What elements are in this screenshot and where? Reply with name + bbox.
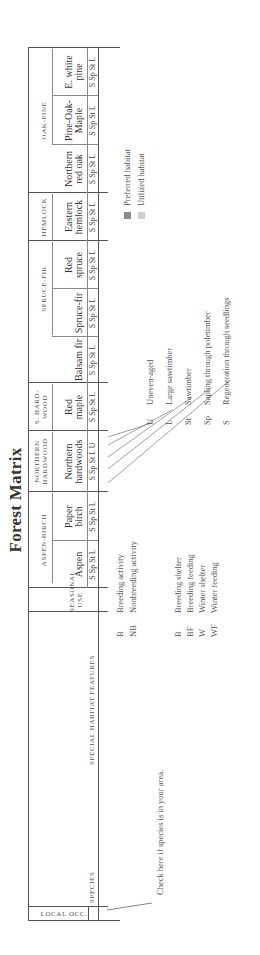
- activity-legend: B Breeding activity NB Nonbreeding activ…: [115, 541, 138, 637]
- legend-text: Winter feeding: [209, 562, 219, 613]
- legend-text: Winter shelter: [197, 565, 207, 613]
- age-legend-item: L Large sawtimber: [164, 297, 174, 425]
- habitat-legend: Preferred habitat Utilized habitat: [122, 149, 146, 219]
- leader-lines: [0, 0, 260, 955]
- legend-abbr: NB: [128, 623, 138, 637]
- legend-text: Breeding shelter: [173, 557, 183, 613]
- legend-abbr: BF: [185, 623, 195, 637]
- legend-abbr: B: [115, 623, 125, 637]
- legend-abbr: S: [221, 413, 231, 425]
- legend-text: Sapling through poletimber: [202, 312, 212, 406]
- legend-abbr: WF: [209, 623, 219, 637]
- legend-abbr: L: [164, 413, 174, 425]
- legend-abbr: Sp: [202, 413, 212, 425]
- legend-text: Uneven-aged: [145, 360, 155, 405]
- activity-legend-item: NB Nonbreeding activity: [128, 541, 138, 637]
- seasonal-legend-item: WF Winter feeding: [209, 554, 219, 637]
- legend-text: Sawtimber: [183, 368, 193, 405]
- legend-text: Large sawtimber: [164, 348, 174, 405]
- age-legend-item: Sp Sapling through poletimber: [202, 297, 212, 425]
- age-legend-item: St Sawtimber: [183, 297, 193, 425]
- legend-abbr: St: [183, 413, 193, 425]
- legend-text: Breeding activity: [115, 554, 125, 613]
- leader-check-here: [107, 903, 152, 910]
- legend-text: Utilized habitat: [136, 153, 146, 206]
- seasonal-legend-item: B Breeding shelter: [173, 554, 183, 637]
- preferred-habitat-swatch: [124, 212, 131, 219]
- legend-text: Breeding feeding: [185, 554, 195, 613]
- legend-abbr: U: [145, 413, 155, 425]
- seasonal-legend-item: BF Breeding feeding: [185, 554, 195, 637]
- habitat-legend-item-utilized: Utilized habitat: [136, 149, 146, 219]
- legend-text: Preferred habitat: [122, 149, 132, 206]
- seasonal-legend-item: W Winter shelter: [197, 554, 207, 637]
- utilized-habitat-swatch: [138, 212, 145, 219]
- legend-abbr: B: [173, 623, 183, 637]
- age-class-legend: U Uneven-aged L Large sawtimber St Sawti…: [145, 297, 231, 425]
- legend-text: Nonbreeding activity: [128, 541, 138, 613]
- forest-matrix-page: Forest Matrix LOCAL OCC. SPECIES SPECIAL…: [0, 0, 260, 955]
- legend-text: Regeneration through seedlings: [221, 297, 231, 405]
- age-legend-item: S Regeneration through seedlings: [221, 297, 231, 425]
- legend-abbr: W: [197, 623, 207, 637]
- check-here-note: Check here if species is in your area.: [155, 770, 165, 895]
- habitat-legend-item-preferred: Preferred habitat: [122, 149, 132, 219]
- age-legend-item: U Uneven-aged: [145, 297, 155, 425]
- activity-legend-item: B Breeding activity: [115, 541, 125, 637]
- seasonal-legend: B Breeding shelter BF Breeding feeding W…: [173, 554, 219, 637]
